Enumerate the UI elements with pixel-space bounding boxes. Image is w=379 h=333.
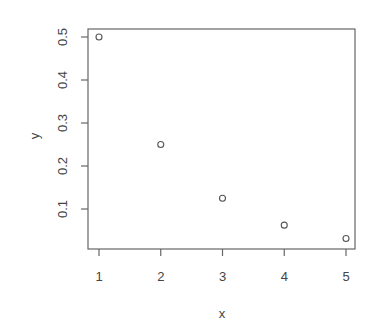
- y-axis: 0.10.20.30.40.5: [55, 28, 88, 218]
- data-point: [343, 236, 349, 242]
- x-tick-label: 1: [95, 269, 102, 284]
- data-points: [96, 34, 349, 242]
- x-tick-label: 5: [342, 269, 349, 284]
- scatter-plot: 12345 0.10.20.30.40.5 x y: [0, 0, 379, 333]
- data-point: [96, 34, 102, 40]
- y-tick-label: 0.3: [55, 114, 70, 132]
- x-tick-label: 3: [219, 269, 226, 284]
- x-tick-label: 2: [157, 269, 164, 284]
- y-tick-label: 0.1: [55, 200, 70, 218]
- y-tick-label: 0.5: [55, 28, 70, 46]
- data-point: [158, 142, 164, 148]
- data-point: [220, 195, 226, 201]
- plot-frame: [88, 29, 355, 249]
- x-tick-label: 4: [281, 269, 288, 284]
- y-tick-label: 0.2: [55, 157, 70, 175]
- y-tick-label: 0.4: [55, 71, 70, 89]
- x-axis: 12345: [95, 249, 349, 284]
- data-point: [281, 222, 287, 228]
- y-axis-title: y: [27, 132, 42, 139]
- x-axis-title: x: [219, 306, 226, 321]
